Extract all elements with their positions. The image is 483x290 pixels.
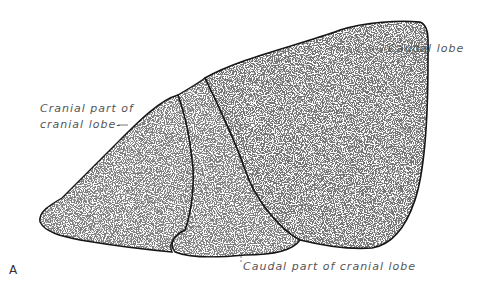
cranial-part-label-line1: Cranial part of [40, 102, 134, 115]
panel-label: A [9, 263, 17, 277]
cranial-part-label-line2: cranial lobe- [40, 118, 121, 131]
caudal-part-cranial-lobe-label: Caudal part of cranial lobe [243, 260, 416, 273]
caudal-lobe-label: Caudal lobe [388, 42, 464, 55]
